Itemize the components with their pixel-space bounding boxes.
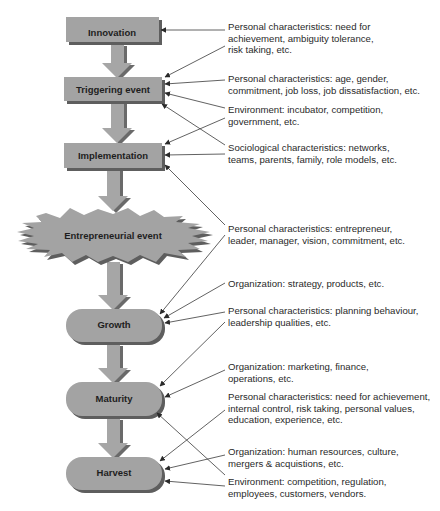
stage-label: Maturity	[96, 393, 134, 404]
flow-arrow-icon	[102, 44, 135, 80]
stage-label: Implementation	[78, 150, 148, 161]
factor-personal-need-for-achievement: Personal characteristics: need for achie…	[228, 21, 374, 56]
stage-label: Harvest	[97, 467, 133, 478]
flow-arrow-icon	[102, 102, 135, 145]
connector-line	[162, 104, 225, 145]
connector-line	[165, 165, 225, 225]
factor-personal-age-gender: Personal characteristics: age, gender, c…	[228, 73, 420, 96]
factor-organization-marketing: Organization: marketing, finance, operat…	[228, 361, 369, 384]
factor-personal-entrepreneur: Personal characteristics: entrepreneur, …	[228, 223, 405, 246]
flow-arrow-icon	[98, 262, 131, 312]
factor-personal-planning: Personal characteristics: planning behav…	[228, 305, 418, 328]
factor-sociological: Sociological characteristics: networks, …	[228, 142, 397, 165]
connector-line	[165, 80, 225, 84]
factor-environment-incubator: Environment: incubator, competition, gov…	[228, 104, 383, 127]
flow-arrow-icon	[98, 169, 131, 213]
factor-organization-hr: Organization: human resources, culture, …	[228, 446, 399, 469]
connector-line	[160, 410, 225, 461]
factor-organization-strategy: Organization: strategy, products, etc.	[228, 278, 384, 290]
stage-label: Triggering event	[76, 84, 151, 95]
connector-line	[165, 118, 225, 144]
connector-line	[165, 93, 225, 108]
stage-entrepreneurial-event: Entrepreneurial event	[17, 208, 213, 265]
connector-line	[165, 312, 225, 323]
flow-arrow-icon	[98, 344, 131, 385]
stage-growth: Growth	[66, 309, 165, 345]
stage-maturity: Maturity	[66, 382, 165, 419]
connector-line	[157, 413, 225, 475]
connector-line	[165, 154, 225, 155]
stage-label: Innovation	[88, 27, 136, 38]
stage-harvest: Harvest	[66, 457, 165, 493]
stage-label: Entrepreneurial event	[64, 230, 163, 241]
flow-arrow-icon	[98, 418, 131, 460]
connectors	[157, 30, 225, 486]
connector-line	[165, 370, 225, 397]
stage-label: Growth	[97, 319, 130, 330]
factor-environment-regulation: Environment: competition, regulation, em…	[228, 476, 386, 499]
stage-innovation: Innovation	[66, 17, 162, 45]
connector-line	[165, 46, 225, 77]
connector-line	[164, 283, 225, 318]
stage-implementation: Implementation	[64, 143, 165, 171]
stage-triggering-event: Triggering event	[64, 77, 165, 104]
connector-line	[165, 481, 225, 486]
factor-personal-internal-control: Personal characteristics: need for achie…	[228, 391, 430, 426]
connector-line	[160, 322, 225, 386]
